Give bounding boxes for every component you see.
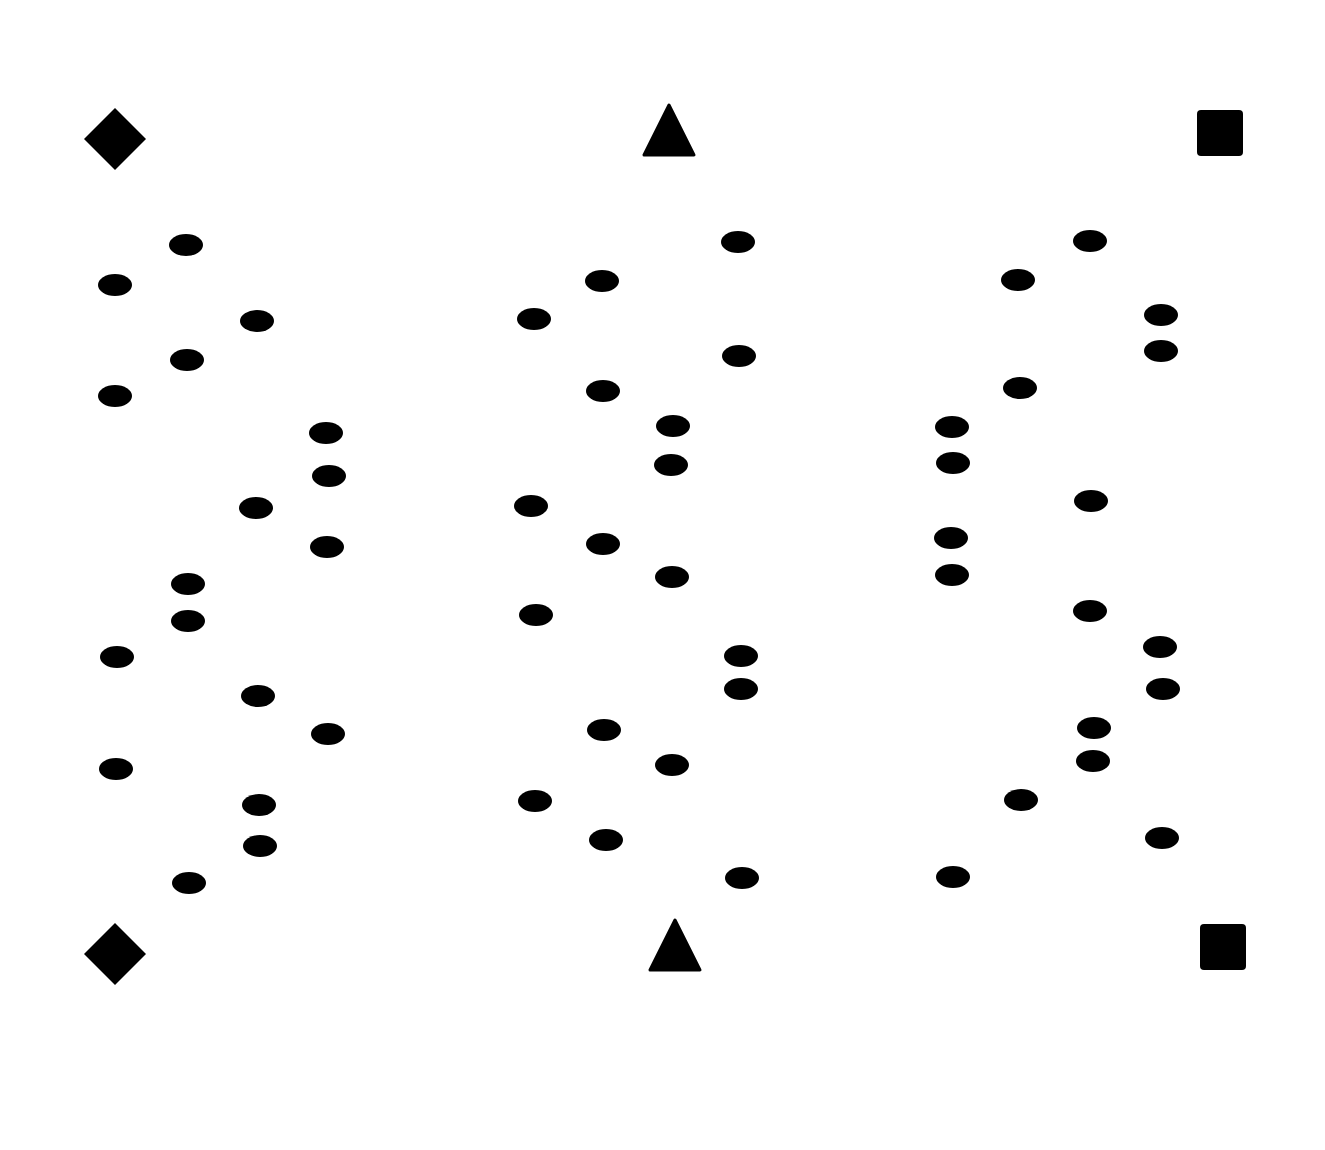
dot [171, 610, 205, 632]
dot [722, 345, 756, 367]
dot [1001, 269, 1035, 291]
dot [1073, 600, 1107, 622]
dot [519, 604, 553, 626]
dot [721, 231, 755, 253]
dot [725, 867, 759, 889]
dot [936, 866, 970, 888]
dot [98, 385, 132, 407]
dot [172, 872, 206, 894]
dot [169, 234, 203, 256]
dot [935, 416, 969, 438]
dot [99, 758, 133, 780]
dot [517, 308, 551, 330]
dot [243, 835, 277, 857]
dot [171, 573, 205, 595]
dot [589, 829, 623, 851]
dot [655, 754, 689, 776]
dot [170, 349, 204, 371]
dot-pattern-canvas [0, 0, 1325, 1150]
dot [239, 497, 273, 519]
dot [1004, 789, 1038, 811]
dot [654, 454, 688, 476]
dot [1144, 304, 1178, 326]
dot [1143, 636, 1177, 658]
dot [934, 527, 968, 549]
dot [724, 678, 758, 700]
dot [586, 533, 620, 555]
dot [1077, 717, 1111, 739]
square-marker-right-top [1197, 110, 1243, 156]
dot [935, 564, 969, 586]
dot [240, 310, 274, 332]
dot [586, 380, 620, 402]
dot [1145, 827, 1179, 849]
dot [585, 270, 619, 292]
dot [514, 495, 548, 517]
dot [312, 465, 346, 487]
dot [242, 794, 276, 816]
dot [1074, 490, 1108, 512]
dot [241, 685, 275, 707]
dot [724, 645, 758, 667]
dot [309, 422, 343, 444]
dot [100, 646, 134, 668]
dot [1003, 377, 1037, 399]
dot [1076, 750, 1110, 772]
dot [1144, 340, 1178, 362]
dot [310, 536, 344, 558]
dot [587, 719, 621, 741]
dot [518, 790, 552, 812]
dot [655, 566, 689, 588]
dot [311, 723, 345, 745]
dot [1073, 230, 1107, 252]
dot [656, 415, 690, 437]
square-marker-right-bottom [1200, 924, 1246, 970]
dot [936, 452, 970, 474]
dot [98, 274, 132, 296]
dot [1146, 678, 1180, 700]
